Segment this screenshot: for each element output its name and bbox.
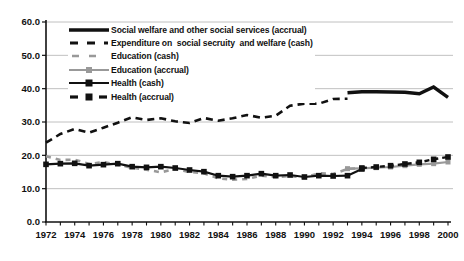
x-axis-tick-label: 1978 (122, 229, 143, 240)
x-axis-tick-label: 1998 (409, 229, 430, 240)
y-axis-tick-label: 0.0 (27, 216, 40, 227)
x-axis-tick-label: 1990 (294, 229, 315, 240)
series-marker-4 (101, 162, 107, 168)
solid-thick-line-swatch-icon (68, 25, 110, 35)
x-axis-tick-label: 1986 (236, 229, 257, 240)
series-marker-4 (115, 161, 121, 167)
x-axis-tick-label: 1996 (380, 229, 401, 240)
series-marker-4 (58, 161, 64, 167)
legend-label: Social welfare and other social services… (111, 25, 307, 35)
x-axis-tick-label: 1994 (351, 229, 373, 240)
x-axis-tick-label: 1972 (35, 229, 56, 240)
series-marker-4 (302, 174, 308, 180)
legend-label: Education (accrual) (111, 65, 189, 75)
series-marker-4 (172, 165, 178, 171)
series-marker-4 (72, 161, 78, 167)
chart: 0.010.020.030.040.050.060.01972197419761… (0, 0, 464, 261)
series-marker-5 (359, 165, 365, 171)
black-line-square-marker-swatch-icon (68, 78, 110, 88)
legend-item-education-accrual: Education (accrual) (68, 63, 313, 76)
series-marker-4 (244, 173, 250, 179)
x-axis-tick-label: 1982 (179, 229, 200, 240)
legend-item-social-welfare-accrual: Social welfare and other social services… (68, 23, 313, 36)
x-axis-tick-label: 1984 (208, 229, 230, 240)
series-marker-4 (230, 174, 236, 180)
x-axis-tick-label: 1992 (323, 229, 344, 240)
series-marker-5 (431, 157, 437, 163)
x-axis-tick-label: 1988 (265, 229, 286, 240)
legend-item-education-cash: Education (cash) (68, 50, 313, 63)
series-marker-4 (144, 165, 150, 171)
legend-label: Expenditure on social secruity and welfa… (111, 38, 313, 48)
legend-item-health-cash: Health (cash) (68, 77, 313, 90)
legend-label: Health (cash) (111, 78, 164, 88)
x-axis-tick-label: 1980 (150, 229, 171, 240)
y-axis-tick-label: 60.0 (22, 16, 41, 27)
series-marker-4 (345, 173, 351, 179)
series-marker-4 (273, 173, 279, 179)
chart-legend: Social welfare and other social services… (68, 23, 315, 103)
series-marker-4 (158, 164, 164, 170)
series-marker-4 (43, 162, 49, 168)
series-marker-4 (187, 167, 193, 173)
series-marker-4 (316, 173, 322, 179)
series-marker-3 (345, 166, 350, 171)
series-marker-5 (402, 161, 408, 167)
legend-label: Education (cash) (111, 51, 179, 61)
x-axis-tick-label: 1974 (64, 229, 86, 240)
gray-dashed-line-swatch-icon (68, 51, 110, 61)
series-marker-5 (373, 164, 379, 170)
y-axis-tick-label: 40.0 (22, 83, 41, 94)
series-marker-4 (287, 172, 293, 178)
y-axis-tick-label: 10.0 (22, 183, 41, 194)
legend-item-health-accrual: Health (accrual) (68, 90, 313, 103)
legend-label: Health (accrual) (111, 92, 174, 102)
series-marker-5 (388, 163, 394, 169)
legend-item-expenditure-cash: Expenditure on social secruity and welfa… (68, 36, 313, 49)
dashed-line-swatch-icon (68, 38, 110, 48)
series-marker-4 (330, 173, 336, 179)
series-marker-4 (129, 164, 135, 170)
series-line-1 (46, 99, 348, 143)
y-axis-tick-label: 30.0 (22, 116, 41, 127)
series-marker-3 (446, 160, 451, 165)
series-marker-4 (86, 163, 92, 169)
x-axis-tick-label: 2000 (437, 229, 458, 240)
y-axis-tick-label: 50.0 (22, 50, 41, 61)
series-marker-4 (215, 173, 221, 179)
x-axis-tick-label: 1976 (93, 229, 114, 240)
y-axis-tick-label: 20.0 (22, 150, 41, 161)
series-marker-5 (445, 154, 451, 160)
series-marker-4 (201, 169, 207, 175)
series-marker-4 (259, 171, 265, 177)
black-dash-square-marker-swatch-icon (68, 92, 110, 102)
series-marker-5 (416, 160, 422, 166)
gray-line-square-marker-swatch-icon (68, 65, 110, 75)
